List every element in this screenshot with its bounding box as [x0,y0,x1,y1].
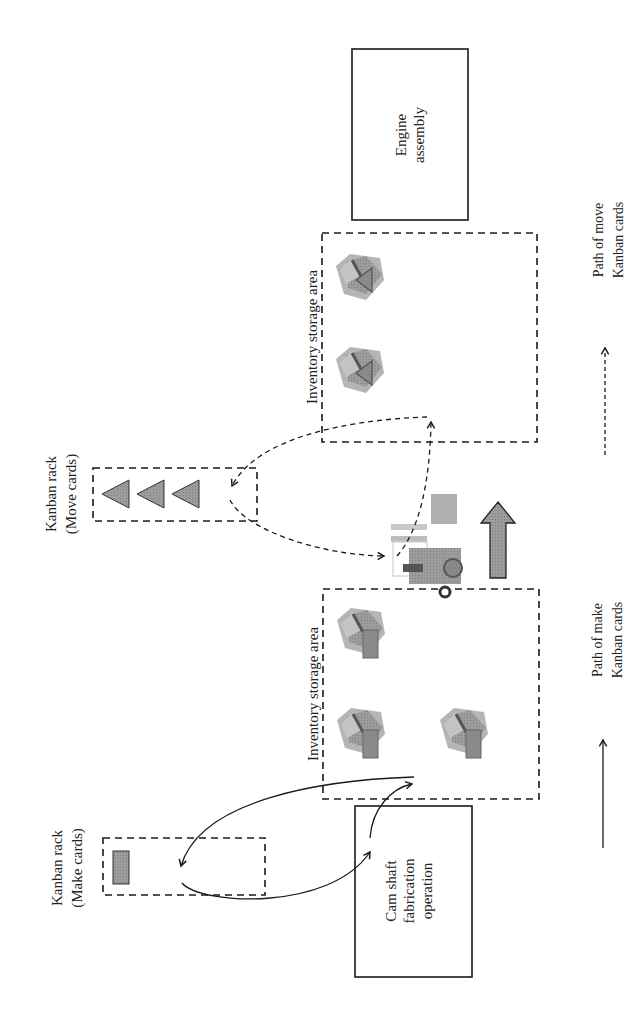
make-path-to-fabrication [182,852,370,899]
move-card-icon [137,480,164,508]
kanban-make-label-1: Kanban rack [49,829,65,906]
legend-move: Path of move Kanban cards [591,202,626,455]
legend-move-label-1: Path of move [591,203,606,278]
engine-assembly-node: Engine assembly [352,49,468,220]
inventory-storage-upper: Inventory storage area [304,233,537,442]
kanban-move-label-1: Kanban rack [43,455,59,532]
cam-shaft-label-2: fabrication [401,858,417,923]
engine-assembly-label-2: assembly [411,107,427,163]
legend-make-label-1: Path of make [590,603,605,677]
kanban-make-label-2: (Make cards) [69,828,86,908]
forklift-icon [391,494,462,597]
legend-make: Path of make Kanban cards [590,602,625,848]
make-card-icon [113,851,129,884]
kanban-move-label-2: (Move cards) [63,454,80,534]
kanban-diagram: Engine assembly Inventory storage area I… [0,0,637,1025]
box-with-move-card-icon [336,254,384,300]
make-path-to-inventory [370,784,412,838]
material-flow-arrow-icon [481,502,515,578]
move-card-icon [102,480,129,508]
box-with-make-card-icon [337,708,385,758]
cam-shaft-label-3: operation [419,862,435,919]
box-with-make-card-icon [440,708,488,758]
move-card-icon [172,480,199,508]
box-with-make-card-icon [337,608,385,658]
box-with-move-card-icon [336,347,384,393]
move-path-to-rack [232,417,427,486]
inventory-storage-lower: Inventory storage area [305,589,539,799]
move-path-to-forklift [230,500,384,556]
inventory-lower-label: Inventory storage area [305,627,321,761]
engine-assembly-label-1: Engine [393,113,409,156]
make-path-to-rack [181,777,414,866]
cam-shaft-fabrication-node: Cam shaft fabrication operation [355,806,472,977]
legend-move-label-2: Kanban cards [611,202,626,279]
legend-make-label-2: Kanban cards [610,602,625,679]
cam-shaft-label-1: Cam shaft [383,860,399,922]
inventory-upper-label: Inventory storage area [304,270,320,404]
kanban-rack-make: Kanban rack (Make cards) [49,828,265,908]
kanban-rack-move: Kanban rack (Move cards) [43,454,257,534]
